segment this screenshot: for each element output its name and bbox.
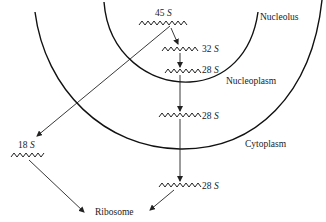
rna-18s-strand [11,153,44,157]
rrna-processing-diagram: 45 S 32 S 28 S 28 S 28 S 18 S Nucleolus … [0,0,326,222]
rna-28s-nucleoplasm-strand [159,113,201,117]
label-nucleoplasm: Nucleoplasm [226,77,276,87]
label-ribosome: Ribosome [95,208,134,218]
label-nucleolus: Nucleolus [260,13,299,23]
rna-28s-cytoplasm-strand [159,183,201,187]
label-32s: 32 S [202,45,219,55]
label-45s: 45 S [155,9,172,19]
label-cytoplasm: Cytoplasm [245,140,286,150]
rna-28s-nucleolus-strand [165,69,201,73]
rna-45s-strand [139,21,187,25]
label-28s-nucleolus: 28 S [202,66,219,76]
label-18s: 18 S [18,141,35,151]
label-28s-cytoplasm: 28 S [202,182,219,192]
arrow-28s-to-ribosome [150,190,174,210]
label-28s-nucleoplasm: 28 S [202,112,219,122]
diagram-canvas [0,0,326,222]
rna-32s-strand [162,47,198,51]
arrow-45s-to-32s [171,28,178,44]
arrow-18s-to-ribosome [29,160,84,212]
arrow-45s-to-18s [37,26,170,136]
